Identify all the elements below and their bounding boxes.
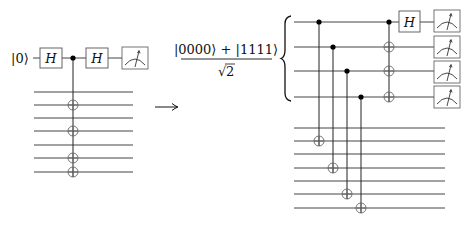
transformation-arrow-icon: [155, 104, 178, 111]
hadamard-gate: H: [399, 11, 420, 32]
sqrt-two-denominator: √ 2: [218, 64, 235, 79]
control-dot: [330, 44, 335, 49]
control-dot: [344, 68, 349, 73]
fanout-cnot-3: [342, 68, 352, 199]
input-ket-label: |0⟩: [11, 51, 29, 66]
control-dot: [316, 19, 321, 24]
hadamard-gate-1: H: [40, 48, 62, 68]
cnot-target: [342, 189, 352, 199]
meter-icon: [434, 36, 460, 58]
hadamard-gate-2: H: [86, 48, 108, 68]
meter-icon: [434, 61, 460, 83]
ghz-state-expression: |0000⟩ + |1111⟩ √ 2: [174, 42, 278, 79]
right-circuit: H: [281, 10, 460, 213]
cnot-target: [68, 100, 78, 110]
sqrt-radicand: 2: [226, 64, 234, 79]
hadamard-gate-label: H: [90, 51, 103, 66]
cnot-target: [384, 92, 394, 102]
hadamard-gate-label: H: [44, 51, 57, 66]
meter-icon: [122, 47, 148, 69]
meter-icon: [434, 10, 460, 32]
cnot-target: [356, 203, 366, 213]
ancilla-wires: [34, 92, 133, 172]
ancilla-wires: [294, 128, 445, 208]
cnot-target: [68, 167, 78, 177]
quantum-circuit-diagram: |0⟩ H H: [0, 0, 474, 228]
fanout-cnot-1: [314, 19, 324, 146]
control-dot: [358, 94, 363, 99]
cnot-target: [68, 126, 78, 136]
left-circuit: |0⟩ H H: [11, 47, 148, 177]
cnot-target: [68, 153, 78, 163]
cnot-target: [314, 136, 324, 146]
multi-target-cnot: [384, 19, 394, 102]
cnot-target: [384, 42, 394, 52]
hadamard-gate-label: H: [403, 15, 416, 30]
control-dot: [386, 19, 391, 24]
control-dot: [70, 55, 75, 60]
cnot-target: [328, 163, 338, 173]
cnot-target: [384, 66, 394, 76]
meter-icon: [434, 86, 460, 108]
state-numerator: |0000⟩ + |1111⟩: [174, 42, 278, 57]
curly-brace: [281, 16, 291, 101]
